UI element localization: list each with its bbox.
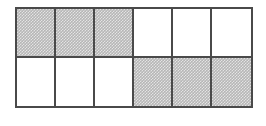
grid-cell-r1c5[interactable] — [173, 9, 212, 58]
grid-cell-r1c4[interactable] — [134, 9, 173, 58]
grid-cell-r1c3[interactable] — [95, 9, 134, 58]
grid-cell-r1c2[interactable] — [56, 9, 95, 58]
figure-canvas — [0, 0, 266, 126]
grid-cell-r1c1[interactable] — [17, 9, 56, 58]
grid-cell-r2c4[interactable] — [134, 58, 173, 107]
grid-cell-r2c3[interactable] — [95, 58, 134, 107]
grid-cell-r2c1[interactable] — [17, 58, 56, 107]
fraction-grid — [15, 7, 253, 108]
grid-cell-r2c6[interactable] — [212, 58, 251, 107]
grid-cell-r2c2[interactable] — [56, 58, 95, 107]
grid-cell-r2c5[interactable] — [173, 58, 212, 107]
grid-cell-r1c6[interactable] — [212, 9, 251, 58]
